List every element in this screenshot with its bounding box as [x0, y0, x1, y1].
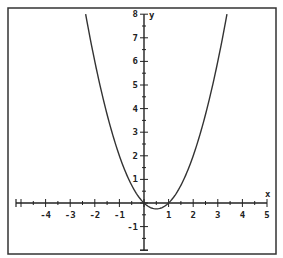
y-tick-label: 5 — [133, 80, 138, 90]
x-tick-label: 3 — [215, 210, 220, 220]
x-tick-label: -1 — [114, 210, 125, 220]
parabola-chart: -4-3-2-112345 -112345678 x y — [0, 0, 283, 258]
y-tick-label: 1 — [133, 174, 138, 184]
y-tick-label: 8 — [133, 9, 138, 19]
y-tick-label: 2 — [133, 151, 138, 161]
y-axis-label: y — [149, 10, 155, 20]
y-tick-label: 6 — [133, 56, 138, 66]
x-tick-label: -3 — [65, 210, 76, 220]
x-axis-label: x — [265, 189, 271, 199]
x-tick-label: -2 — [89, 210, 100, 220]
y-tick-label: -1 — [127, 222, 138, 232]
x-tick-label: -4 — [40, 210, 51, 220]
y-tick-label: 7 — [133, 33, 138, 43]
x-tick-label: 4 — [240, 210, 246, 220]
x-tick-label: 2 — [190, 210, 195, 220]
y-tick-label: 3 — [133, 127, 138, 137]
x-tick-label: 1 — [166, 210, 171, 220]
x-tick-label: 5 — [264, 210, 269, 220]
y-tick-label: 4 — [133, 104, 139, 114]
